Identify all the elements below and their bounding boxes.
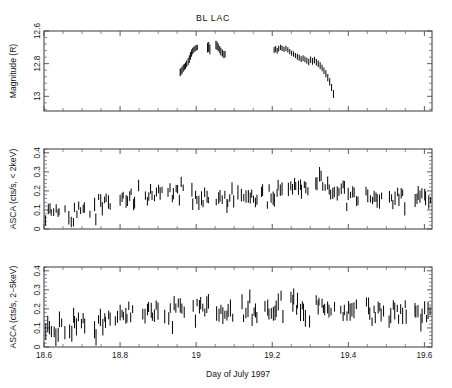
y-tick-label: 0.2 xyxy=(33,303,42,315)
y-tick-label: 12.6 xyxy=(33,23,42,39)
light-curve-plot: BL LAC12.612.813Magnitude (R)00.10.20.30… xyxy=(0,0,452,388)
y-tick-label: 0 xyxy=(33,344,42,349)
y-tick-label: 0.4 xyxy=(33,265,42,277)
y-tick-label: 0.1 xyxy=(33,204,42,216)
y-axis-title: ASCA (cts/s, < 2keV) xyxy=(8,149,18,230)
panel-3: 18.618.81919.219.419.600.10.20.30.4ASCA … xyxy=(8,265,433,379)
x-axis-title: Day of July 1997 xyxy=(206,369,270,379)
y-tick-label: 0.2 xyxy=(33,185,42,197)
figure-title: BL LAC xyxy=(196,13,230,23)
x-tick-label: 18.6 xyxy=(36,351,52,360)
x-tick-label: 18.8 xyxy=(112,351,128,360)
y-tick-label: 0.4 xyxy=(33,147,42,159)
bl-lac-light-curve-figure: BL LAC12.612.813Magnitude (R)00.10.20.30… xyxy=(0,0,452,388)
panel-2: 00.10.20.30.4ASCA (cts/s, < 2keV) xyxy=(8,147,432,232)
y-axis-title: ASCA (cts/s, 2−5keV) xyxy=(8,265,18,348)
panel-frame xyxy=(44,31,432,111)
y-tick-label: 0.3 xyxy=(33,284,42,296)
data-points xyxy=(180,41,333,98)
x-tick-label: 19.2 xyxy=(264,351,280,360)
y-tick-label: 0.1 xyxy=(33,322,42,334)
y-tick-label: 12.8 xyxy=(33,55,42,71)
data-points xyxy=(45,167,430,227)
y-tick-label: 0.3 xyxy=(33,166,42,178)
data-points xyxy=(46,288,430,346)
y-tick-label: 13 xyxy=(33,91,42,101)
x-tick-label: 19.4 xyxy=(340,351,356,360)
panel-1: 12.612.813Magnitude (R) xyxy=(8,23,432,111)
x-tick-label: 19.6 xyxy=(416,351,432,360)
x-tick-label: 19 xyxy=(192,351,202,360)
y-tick-label: 0 xyxy=(33,226,42,231)
y-axis-title: Magnitude (R) xyxy=(8,44,18,99)
